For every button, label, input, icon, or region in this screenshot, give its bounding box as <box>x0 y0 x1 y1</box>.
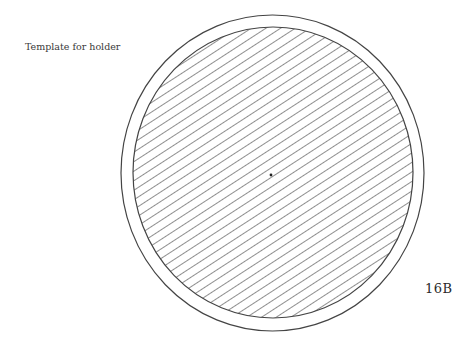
center-mark <box>270 174 273 177</box>
hatched-inner-disc <box>133 27 413 318</box>
figure-label: 16B <box>425 281 453 296</box>
holder-template-diagram <box>0 0 475 338</box>
